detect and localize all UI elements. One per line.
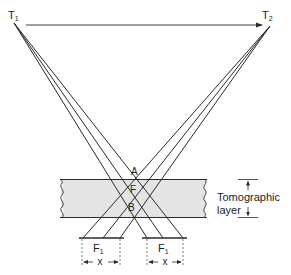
label-point-b: B (128, 202, 135, 213)
label-t2: T2 (262, 9, 273, 22)
label-film-left: F1 (93, 242, 104, 255)
label-t1: T1 (8, 9, 19, 22)
label-shift-right: x (163, 256, 168, 267)
label-film-right: F1 (158, 242, 169, 255)
layer-left-wavy-edge (61, 180, 63, 218)
label-point-f: F (130, 184, 136, 195)
label-layer-line2: layer (217, 204, 241, 216)
tomography-diagram: T1 T2 A F B Tomographic layer F1 F1 x x (0, 0, 291, 275)
layer-right-wavy-edge (204, 180, 206, 218)
label-point-a: A (131, 166, 138, 177)
label-shift-left: x (98, 256, 103, 267)
label-layer-line1: Tomographic (217, 191, 280, 203)
